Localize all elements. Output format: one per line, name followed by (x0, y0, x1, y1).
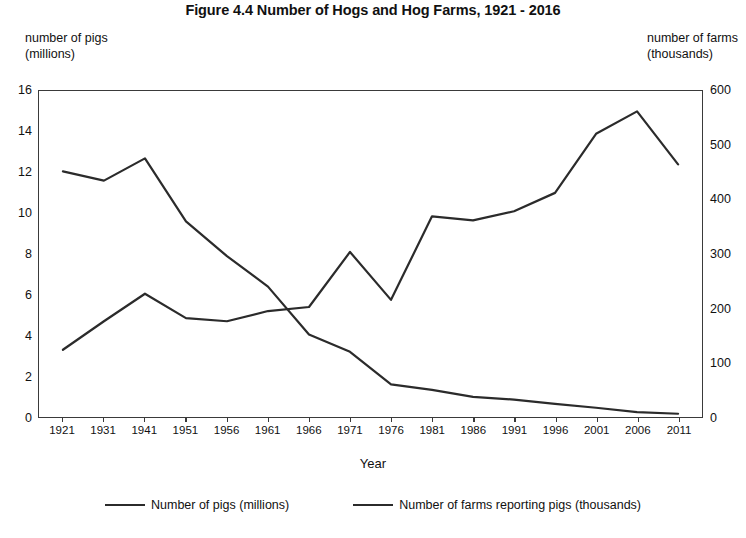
y-axis-right-tick-label: 100 (710, 356, 746, 370)
legend-label-farms: Number of farms reporting pigs (thousand… (399, 498, 641, 512)
x-axis-tick-label: 1956 (205, 424, 249, 436)
y-axis-left-tick-label: 0 (2, 411, 32, 425)
x-axis-tick-mark (597, 418, 598, 422)
chart-title: Figure 4.4 Number of Hogs and Hog Farms,… (0, 2, 746, 18)
y-axis-left-tick-label: 6 (2, 288, 32, 302)
right-axis-caption: number of farms (thousands) (647, 30, 738, 62)
plot-area (38, 90, 703, 418)
y-axis-left-tick-label: 12 (2, 165, 32, 179)
x-axis-tick-label: 1981 (410, 424, 454, 436)
legend-item-pigs: Number of pigs (millions) (105, 498, 289, 512)
x-axis-tick-mark (350, 418, 351, 422)
x-axis-tick-mark (103, 418, 104, 422)
x-axis-tick-label: 1921 (40, 424, 84, 436)
y-axis-left-tick-label: 14 (2, 124, 32, 138)
x-axis-tick-label: 1951 (163, 424, 207, 436)
line-series-farms (63, 158, 678, 413)
x-axis-tick-mark (638, 418, 639, 422)
x-axis-tick-label: 1971 (328, 424, 372, 436)
line-series-pigs (63, 111, 678, 349)
y-axis-right-tick-label: 400 (710, 192, 746, 206)
x-axis-tick-mark (185, 418, 186, 422)
legend-line-swatch-pigs (105, 504, 145, 507)
x-axis-tick-label: 1996 (534, 424, 578, 436)
y-axis-left-tick-label: 4 (2, 329, 32, 343)
y-axis-left-tick-label: 16 (2, 83, 32, 97)
chart-legend: Number of pigs (millions) Number of farm… (0, 498, 746, 512)
x-axis-tick-mark (514, 418, 515, 422)
x-axis-tick-mark (144, 418, 145, 422)
x-axis-tick-label: 2011 (657, 424, 701, 436)
x-axis-tick-mark (391, 418, 392, 422)
x-axis-title: Year (0, 456, 746, 471)
x-axis-tick-mark (473, 418, 474, 422)
x-axis-tick-label: 1966 (287, 424, 331, 436)
x-axis-tick-mark (556, 418, 557, 422)
y-axis-left-tick-label: 10 (2, 206, 32, 220)
x-axis-tick-mark (679, 418, 680, 422)
legend-item-farms: Number of farms reporting pigs (thousand… (353, 498, 641, 512)
x-axis-tick-label: 1991 (492, 424, 536, 436)
left-axis-caption: number of pigs (millions) (25, 30, 108, 62)
x-axis-tick-label: 2001 (575, 424, 619, 436)
x-axis-tick-mark (62, 418, 63, 422)
y-axis-right-tick-label: 200 (710, 302, 746, 316)
legend-line-swatch-farms (353, 504, 393, 507)
legend-label-pigs: Number of pigs (millions) (151, 498, 289, 512)
y-axis-left-tick-label: 8 (2, 247, 32, 261)
y-axis-left-tick-label: 2 (2, 370, 32, 384)
y-axis-right-tick-label: 300 (710, 247, 746, 261)
figure-container: Figure 4.4 Number of Hogs and Hog Farms,… (0, 0, 746, 538)
x-axis-tick-label: 1941 (122, 424, 166, 436)
x-axis-tick-mark (432, 418, 433, 422)
x-axis-tick-mark (309, 418, 310, 422)
x-axis-tick-label: 1986 (451, 424, 495, 436)
x-axis-tick-label: 2006 (616, 424, 660, 436)
x-axis-tick-mark (268, 418, 269, 422)
y-axis-right-tick-label: 600 (710, 83, 746, 97)
x-axis-tick-label: 1931 (81, 424, 125, 436)
x-axis-tick-label: 1961 (246, 424, 290, 436)
x-axis-tick-label: 1976 (369, 424, 413, 436)
x-axis-tick-mark (227, 418, 228, 422)
y-axis-right-tick-label: 500 (710, 138, 746, 152)
y-axis-right-tick-label: 0 (710, 411, 746, 425)
plot-lines (39, 91, 702, 417)
